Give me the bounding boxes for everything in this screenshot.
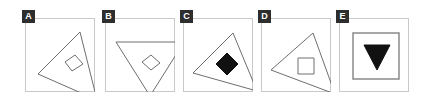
outer-triangle-tilted [38, 32, 95, 92]
outer-triangle-inverted [116, 42, 175, 92]
panel-a[interactable]: A [25, 18, 95, 92]
inner-diamond-outline [142, 55, 160, 70]
outer-triangle-tilted [271, 33, 331, 92]
inner-diamond-filled [216, 53, 238, 75]
panel-label-badge: A [22, 10, 35, 23]
panel-label-badge: C [180, 10, 193, 23]
panel-label-badge: E [336, 10, 349, 23]
panel-label-badge: B [102, 10, 115, 23]
figure-canvas: ABCDE [0, 0, 440, 99]
panel-b[interactable]: B [105, 18, 175, 92]
inner-square-outline [298, 58, 314, 74]
shape-figure-c [183, 18, 253, 92]
shape-figure-e [339, 18, 409, 92]
panel-e[interactable]: E [339, 18, 409, 92]
inner-diamond-outline [65, 55, 83, 71]
panel-c[interactable]: C [183, 18, 253, 92]
panel-d[interactable]: D [261, 18, 331, 92]
shape-figure-b [105, 18, 175, 92]
panel-label-badge: D [258, 10, 271, 23]
inner-triangle-filled-down [364, 45, 390, 70]
shape-figure-a [25, 18, 95, 92]
shape-figure-d [261, 18, 331, 92]
